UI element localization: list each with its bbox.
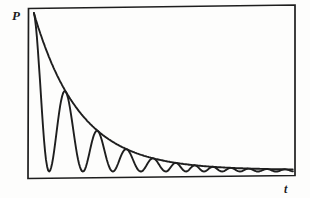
plot-canvas: [0, 0, 310, 198]
y-axis-label: P: [12, 9, 20, 22]
x-axis-label: t: [284, 183, 287, 195]
oscillation-curve: [34, 13, 293, 172]
envelope-curve: [34, 13, 293, 170]
figure-damped-oscillation: P t: [0, 0, 310, 198]
plot-frame: [28, 5, 295, 179]
